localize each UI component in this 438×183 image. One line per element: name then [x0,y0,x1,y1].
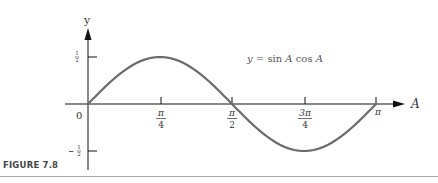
svg-text:1: 1 [77,144,81,150]
svg-text:2: 2 [75,57,79,63]
x-label-pi4: π 4 [156,108,166,130]
svg-text:π: π [157,108,165,118]
x-label-pi: π [374,107,382,117]
y-label-half: 1 2 [75,50,79,63]
figure-caption: FIGURE 7.8 [3,160,58,170]
bottom-rule [0,176,438,177]
svg-text:π: π [228,108,236,118]
origin-label: 0 [76,110,82,121]
x-label-pi2: π 2 [227,108,237,130]
svg-text:2: 2 [77,151,81,157]
chart-figure: y A 0 1 2 1 2 π 4 π 2 3π 4 π y = sin A c… [0,0,438,183]
x-label-3pi4: 3π 4 [298,108,312,130]
y-label-neg-half: 1 2 [69,144,81,157]
equation-label: y = sin A cos A [246,53,323,64]
svg-text:1: 1 [75,50,79,56]
svg-text:2: 2 [229,120,235,130]
svg-text:4: 4 [158,120,164,130]
y-axis-arrow-icon [85,28,92,40]
y-axis-label: y [83,14,91,27]
x-axis-label: A [410,97,420,111]
svg-text:3π: 3π [299,108,312,118]
x-axis-arrow-icon [393,101,405,108]
svg-text:4: 4 [302,120,308,130]
